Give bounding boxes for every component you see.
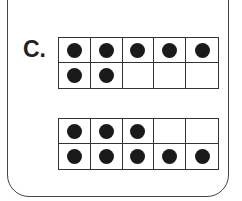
ten-frame-cell [186,63,218,88]
counter-dot-icon [130,149,145,164]
counter-dot-icon [67,43,82,58]
ten-frame-bottom [58,118,219,170]
ten-frame-cell [123,144,155,169]
ten-frame-cell [186,38,218,63]
ten-frame-cell [154,63,186,88]
counter-dot-icon [162,149,177,164]
ten-frame-cell [91,38,123,63]
counter-dot-icon [195,43,210,58]
ten-frame-cell [59,119,91,144]
counter-dot-icon [130,124,145,139]
ten-frame-cell [154,119,186,144]
counter-dot-icon [195,149,210,164]
ten-frame-cell [59,63,91,88]
counter-dot-icon [99,43,114,58]
ten-frame-cell [154,38,186,63]
ten-frame-cell [91,144,123,169]
ten-frame-cell [186,144,218,169]
ten-frame-top [58,37,219,89]
ten-frame-cell [123,119,155,144]
ten-frame-cell [123,63,155,88]
counter-dot-icon [99,149,114,164]
ten-frame-cell [154,144,186,169]
ten-frame-cell [59,38,91,63]
counter-dot-icon [99,68,114,83]
counter-dot-icon [67,124,82,139]
problem-label: C. [23,36,46,63]
ten-frame-cell [91,119,123,144]
ten-frame-cell [91,63,123,88]
counter-dot-icon [67,68,82,83]
ten-frame-cell [186,119,218,144]
counter-dot-icon [67,149,82,164]
ten-frame-cell [123,38,155,63]
counter-dot-icon [130,43,145,58]
counter-dot-icon [99,124,114,139]
counter-dot-icon [162,43,177,58]
ten-frame-cell [59,144,91,169]
